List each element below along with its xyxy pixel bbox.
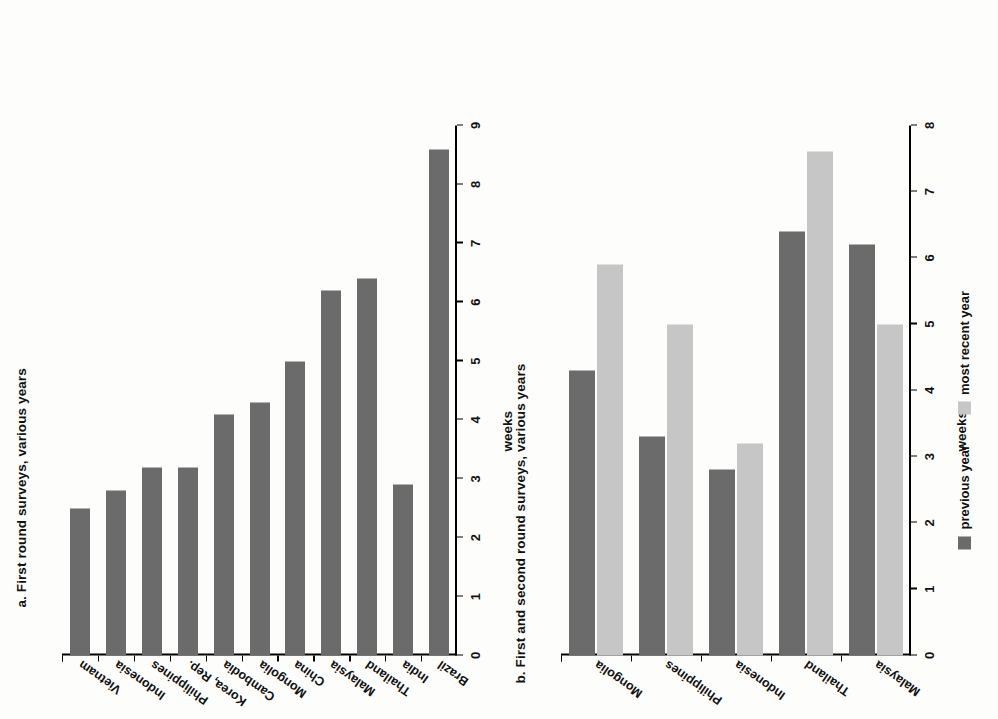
category-label: Mongolia bbox=[592, 657, 645, 700]
value-tick bbox=[457, 124, 463, 125]
value-tick bbox=[457, 418, 463, 419]
value-tick-label: 7 bbox=[468, 239, 483, 246]
category-tick bbox=[242, 655, 243, 661]
bar-india-first-round bbox=[393, 484, 413, 655]
panel-a: a. First round surveys, various years we… bbox=[0, 0, 499, 719]
value-tick bbox=[911, 124, 917, 125]
category-label: Philippines bbox=[662, 657, 725, 707]
category-tick bbox=[561, 655, 562, 661]
value-tick bbox=[457, 536, 463, 537]
value-tick-label: 7 bbox=[922, 188, 937, 195]
category-tick bbox=[701, 655, 702, 661]
bar-china-first-round bbox=[285, 361, 305, 655]
category-tick bbox=[313, 655, 314, 661]
legend-label: previous year bbox=[957, 444, 972, 529]
value-tick-label: 6 bbox=[468, 298, 483, 305]
bar-mongolia-first-round bbox=[250, 402, 270, 655]
bar-malaysia-first-round bbox=[321, 290, 341, 655]
value-tick bbox=[457, 183, 463, 184]
value-tick bbox=[911, 322, 917, 323]
previous-year-swatch bbox=[958, 536, 971, 549]
category-tick bbox=[62, 655, 63, 661]
value-tick-label: 4 bbox=[468, 416, 483, 423]
bar-cambodia-first-round bbox=[214, 414, 234, 655]
value-tick bbox=[457, 241, 463, 242]
value-tick bbox=[911, 654, 917, 655]
category-tick bbox=[170, 655, 171, 661]
legend-label: most recent year bbox=[957, 290, 972, 394]
value-tick bbox=[911, 190, 917, 191]
value-tick bbox=[457, 654, 463, 655]
category-tick bbox=[771, 655, 772, 661]
value-tick bbox=[457, 595, 463, 596]
value-tick bbox=[911, 389, 917, 390]
bar-brazil-first-round bbox=[429, 149, 449, 655]
bar-philippines-first-round bbox=[142, 467, 162, 655]
value-tick-label: 2 bbox=[468, 534, 483, 541]
value-tick-label: 5 bbox=[468, 357, 483, 364]
panel-a-value-axis bbox=[455, 125, 457, 655]
bar-mongolia-previous-year bbox=[569, 370, 595, 655]
most-recent-year-swatch bbox=[958, 401, 971, 414]
category-tick bbox=[631, 655, 632, 661]
value-tick bbox=[911, 521, 917, 522]
value-tick bbox=[457, 477, 463, 478]
value-tick bbox=[911, 587, 917, 588]
bar-thailand-first-round bbox=[357, 278, 377, 655]
category-tick bbox=[385, 655, 386, 661]
legend-item: previous year bbox=[957, 444, 972, 549]
value-tick bbox=[911, 455, 917, 456]
value-tick-label: 9 bbox=[468, 121, 483, 128]
value-tick-label: 6 bbox=[922, 254, 937, 261]
value-tick-label: 3 bbox=[468, 475, 483, 482]
panel-a-plot-area: 0123456789VietnamIndonesiaPhilippinesKor… bbox=[62, 125, 457, 655]
bar-thailand-previous-year bbox=[779, 231, 805, 655]
bar-malaysia-previous-year bbox=[849, 244, 875, 655]
category-tick bbox=[349, 655, 350, 661]
panel-b: b. First and second round surveys, vario… bbox=[499, 0, 998, 719]
bar-philippines-previous-year bbox=[639, 436, 665, 655]
category-tick bbox=[134, 655, 135, 661]
value-tick-label: 3 bbox=[922, 453, 937, 460]
value-tick-label: 2 bbox=[922, 519, 937, 526]
bar-vietnam-first-round bbox=[70, 508, 90, 655]
figure-root: a. First round surveys, various years we… bbox=[0, 0, 998, 719]
bar-philippines-most-recent-year bbox=[667, 324, 693, 655]
category-tick bbox=[277, 655, 278, 661]
category-tick bbox=[206, 655, 207, 661]
value-tick-label: 5 bbox=[922, 320, 937, 327]
legend: previous yearmost recent year bbox=[957, 290, 972, 549]
bar-mongolia-most-recent-year bbox=[597, 264, 623, 655]
bar-malaysia-most-recent-year bbox=[877, 324, 903, 655]
category-label: Indonesia bbox=[732, 657, 788, 702]
bar-indonesia-first-round bbox=[106, 490, 126, 655]
value-tick-label: 8 bbox=[468, 180, 483, 187]
bar-thailand-most-recent-year bbox=[807, 152, 833, 656]
panel-b-title: b. First and second round surveys, vario… bbox=[513, 363, 528, 683]
category-tick bbox=[421, 655, 422, 661]
value-tick bbox=[457, 359, 463, 360]
panel-a-title: a. First round surveys, various years bbox=[14, 368, 29, 607]
value-tick-label: 1 bbox=[922, 585, 937, 592]
bar-indonesia-previous-year bbox=[709, 470, 735, 656]
category-tick bbox=[841, 655, 842, 661]
bar-indonesia-most-recent-year bbox=[737, 443, 763, 655]
category-tick bbox=[98, 655, 99, 661]
category-label: Brazil bbox=[435, 657, 471, 688]
value-tick-label: 8 bbox=[922, 121, 937, 128]
value-tick-label: 0 bbox=[468, 651, 483, 658]
value-tick-label: 4 bbox=[922, 386, 937, 393]
panel-b-plot-area: 012345678MongoliaPhilippinesIndonesiaTha… bbox=[561, 125, 911, 655]
value-tick-label: 1 bbox=[468, 593, 483, 600]
legend-item: most recent year bbox=[957, 290, 972, 414]
value-tick bbox=[457, 300, 463, 301]
bar-korea-rep-first-round bbox=[178, 467, 198, 655]
value-tick bbox=[911, 256, 917, 257]
category-label: Thailand bbox=[802, 657, 852, 698]
value-tick-label: 0 bbox=[922, 651, 937, 658]
category-label: Malaysia bbox=[872, 657, 923, 698]
